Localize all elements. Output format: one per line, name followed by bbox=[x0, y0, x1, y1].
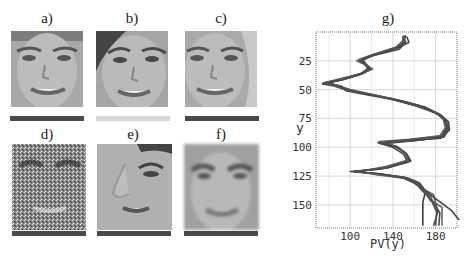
y-tick-label: 50 bbox=[299, 84, 312, 97]
y-axis-label: y bbox=[296, 120, 304, 135]
pv-profile-chart: g) 255075100125150 100140180 y PV(y) bbox=[0, 0, 467, 265]
y-tick-label: 150 bbox=[292, 199, 312, 212]
x-tick-label: 180 bbox=[426, 230, 446, 243]
y-tick-label: 125 bbox=[292, 170, 312, 183]
chart-title: g) bbox=[382, 10, 395, 27]
y-tick-label: 25 bbox=[299, 55, 312, 68]
x-tick-label: 100 bbox=[340, 230, 360, 243]
x-axis-label: PV(y) bbox=[370, 237, 406, 251]
y-tick-label: 100 bbox=[292, 141, 312, 154]
series-line-c bbox=[322, 37, 459, 220]
chart-series bbox=[322, 36, 459, 226]
